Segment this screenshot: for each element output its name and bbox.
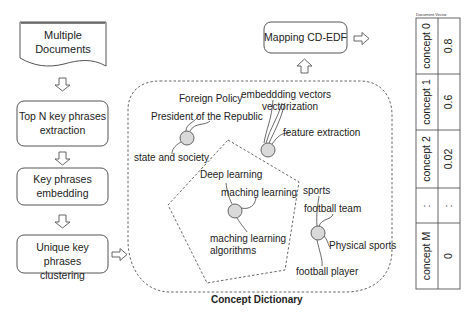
mapping-label: Mapping CD-EDF — [264, 30, 347, 44]
cluster-node-politics — [180, 131, 194, 145]
phrase: Deep learning — [200, 169, 262, 181]
phrase: football player — [296, 266, 358, 278]
key-phrases-embedding-label: Key phrases embedding — [17, 172, 108, 200]
phrase: feature extraction — [283, 127, 360, 139]
phrase: Foreign Policy — [179, 93, 242, 105]
top-n-extraction-label: Top N key phrases extraction — [17, 109, 108, 137]
multiple-documents-label: Multiple Documents — [20, 28, 106, 56]
phrase: maching learning — [221, 187, 297, 199]
phrase: Physical sports — [329, 240, 396, 252]
arrow-right-icon — [354, 33, 369, 45]
arrow-down-icon — [55, 215, 70, 228]
arrow-down-icon — [55, 152, 70, 165]
vector-value: 0.6 — [442, 72, 456, 132]
phrase: football team — [304, 203, 361, 215]
phrase: vectorization — [262, 101, 318, 113]
phrase: sports — [303, 185, 330, 197]
phrase: embeddding vectors — [241, 89, 331, 101]
unique-clustering-label: Unique key phrases clustering — [17, 240, 108, 282]
concept-dictionary-title: Concept Dictionary — [211, 294, 303, 306]
arrow-right-icon — [112, 249, 127, 261]
phrase: algorithms — [210, 245, 256, 257]
phrase: state and society — [134, 152, 209, 164]
phrase: President of the Republic — [151, 111, 263, 123]
arrow-up-icon — [297, 59, 312, 73]
phrase: maching learning — [210, 233, 286, 245]
cluster-node-ml — [228, 204, 242, 218]
vector-value: 0 — [442, 226, 456, 286]
arrow-down-icon — [55, 78, 70, 91]
vector-concept: concept M — [420, 226, 434, 286]
cluster-node-vectors — [261, 143, 275, 157]
cluster-node-sports — [311, 226, 325, 240]
vector-concept: concept 0 — [420, 16, 434, 76]
vector-concept: concept 1 — [420, 72, 434, 132]
vector-value: 0.8 — [442, 16, 456, 76]
